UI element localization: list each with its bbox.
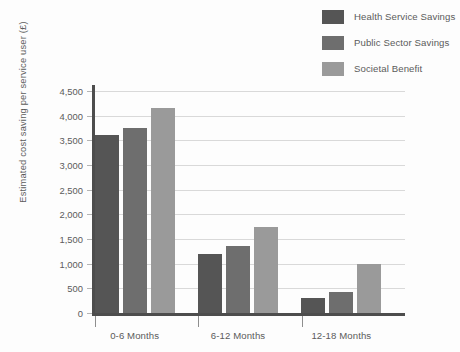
bar [151, 108, 175, 313]
chart-legend: Health Service Savings Public Sector Sav… [322, 9, 455, 76]
bar [357, 264, 381, 313]
bar [329, 292, 353, 313]
legend-item: Health Service Savings [322, 9, 455, 24]
bar [254, 227, 278, 313]
bar [123, 128, 147, 313]
bar [198, 254, 222, 313]
legend-swatch-societal-benefit [322, 62, 344, 76]
y-tick-label: 1,500 [60, 234, 83, 245]
legend-item: Public Sector Savings [322, 35, 455, 50]
y-tick-label: 2,000 [60, 209, 83, 220]
x-tick-mark [302, 316, 303, 327]
bar-group [95, 91, 175, 313]
y-tick-label: 3,000 [60, 160, 83, 171]
y-tick-label: 4,500 [60, 86, 83, 97]
legend-label: Public Sector Savings [354, 37, 449, 48]
x-tick-mark [198, 316, 199, 327]
bar [95, 135, 119, 313]
y-axis-line [92, 85, 95, 313]
bar-group [301, 91, 381, 313]
x-tick-label: 0-6 Months [110, 330, 159, 341]
bar [301, 298, 325, 313]
legend-item: Societal Benefit [322, 61, 455, 76]
bar-group [198, 91, 278, 313]
y-tick-label: 3,500 [60, 135, 83, 146]
y-axis-title: Estimated cost saving per service user (… [18, 10, 28, 215]
x-tick-label: 12-18 Months [311, 330, 371, 341]
y-tick-label: 2,500 [60, 184, 83, 195]
y-tick-label: 500 [67, 283, 83, 294]
y-tick-label: 0 [78, 308, 83, 319]
y-tick-label: 1,000 [60, 258, 83, 269]
plot-area: 05001,0001,5002,0002,5003,0003,5004,0004… [95, 91, 405, 313]
legend-swatch-public-sector-savings [322, 36, 344, 50]
x-axis-line [92, 313, 405, 316]
legend-label: Societal Benefit [354, 63, 422, 74]
y-tick-label: 4,000 [60, 110, 83, 121]
bar-chart: Estimated cost saving per service user (… [0, 0, 460, 352]
x-tick-mark [95, 316, 96, 327]
x-tick-label: 6-12 Months [211, 330, 265, 341]
legend-swatch-health-service-savings [322, 10, 344, 24]
bar [226, 246, 250, 313]
legend-label: Health Service Savings [354, 11, 455, 22]
